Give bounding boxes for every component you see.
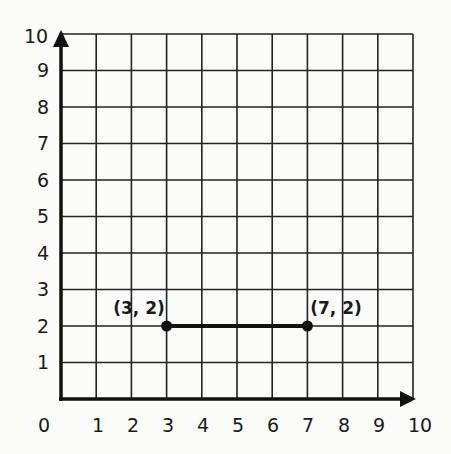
y-tick-labels: 1 2 3 4 5 6 7 8 9 10	[24, 25, 49, 373]
point-7-2	[302, 321, 313, 332]
y-tick-3: 3	[37, 278, 49, 300]
y-tick-1: 1	[37, 351, 49, 373]
y-tick-4: 4	[37, 242, 49, 264]
point-3-2	[161, 321, 172, 332]
y-tick-10: 10	[24, 25, 48, 47]
x-tick-8: 8	[338, 414, 350, 436]
y-axis-arrow-icon	[53, 30, 69, 47]
y-tick-5: 5	[37, 205, 49, 227]
grid-lines	[61, 34, 413, 399]
x-tick-4: 4	[197, 414, 209, 436]
x-tick-9: 9	[373, 414, 385, 436]
x-tick-7: 7	[302, 414, 314, 436]
y-tick-9: 9	[37, 59, 49, 81]
label-point-7-2: (7, 2)	[310, 298, 362, 318]
y-tick-2: 2	[37, 315, 49, 337]
x-tick-labels: 0 1 2 3 4 5 6 7 8 9 10	[38, 414, 432, 436]
x-tick-3: 3	[162, 414, 174, 436]
x-tick-1: 1	[92, 414, 104, 436]
y-tick-8: 8	[37, 96, 49, 118]
y-tick-7: 7	[37, 132, 49, 154]
x-tick-10: 10	[408, 414, 432, 436]
label-point-3-2: (3, 2)	[113, 298, 165, 318]
axes	[59, 44, 404, 401]
x-tick-2: 2	[127, 414, 139, 436]
x-tick-5: 5	[232, 414, 244, 436]
y-tick-6: 6	[37, 169, 49, 191]
x-tick-6: 6	[267, 414, 279, 436]
coordinate-grid: 0 1 2 3 4 5 6 7 8 9 10 1 2 3 4 5 6 7 8 9…	[0, 0, 451, 454]
x-tick-0: 0	[38, 414, 50, 436]
